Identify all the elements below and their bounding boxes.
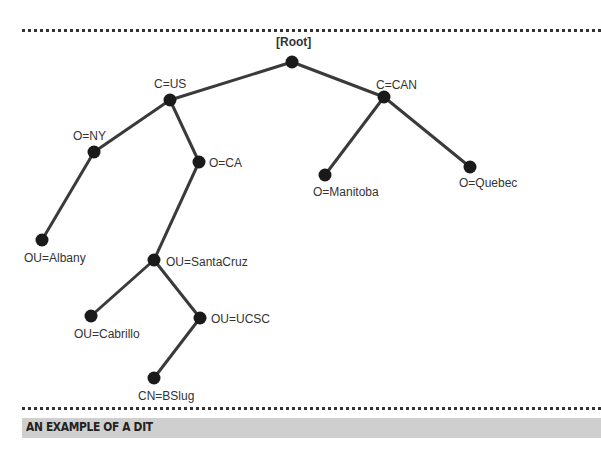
bottom-dotted-rule (22, 407, 601, 410)
node-ou-cabrillo (85, 310, 98, 323)
label-c-us: C=US (154, 77, 186, 91)
edge-root-us (170, 62, 292, 100)
label-root: [Root] (276, 35, 311, 49)
edge-us-ca (170, 100, 199, 162)
node-root (286, 56, 299, 69)
label-ou-albany: OU=Albany (24, 251, 86, 265)
label-o-ny: O=NY (73, 129, 106, 143)
node-ou-santacruz (148, 254, 161, 267)
label-cn-bslug: CN=BSlug (138, 389, 194, 403)
label-c-can: C=CAN (376, 78, 417, 92)
label-ou-cabrillo: OU=Cabrillo (74, 327, 140, 341)
edge-us-ny (94, 100, 170, 152)
node-o-ny (88, 146, 101, 159)
label-o-quebec: O=Quebec (459, 176, 517, 190)
label-o-manitoba: O=Manitoba (313, 185, 379, 199)
edge-can-quebec (384, 97, 470, 167)
edge-root-can (292, 62, 384, 97)
node-ou-albany (36, 234, 49, 247)
node-o-quebec (464, 161, 477, 174)
label-ou-santacruz: OU=SantaCruz (166, 255, 248, 269)
node-o-ca (193, 156, 206, 169)
edge-ucsc-bslug (154, 318, 200, 378)
edge-can-manitoba (325, 97, 384, 175)
node-ou-ucsc (194, 312, 207, 325)
edge-ca-santacruz (154, 162, 199, 260)
node-c-us (164, 94, 177, 107)
node-o-manitoba (319, 169, 332, 182)
edge-santacruz-cabrillo (91, 260, 154, 316)
node-cn-bslug (148, 372, 161, 385)
edge-ny-albany (42, 152, 94, 240)
node-c-can (378, 91, 391, 104)
caption-bar: AN EXAMPLE OF A DIT (22, 418, 601, 438)
figure-caption: AN EXAMPLE OF A DIT (26, 419, 153, 434)
tree-labels: [Root] C=US C=CAN O=NY O=CA O=Manitoba O… (24, 35, 517, 403)
label-ou-ucsc: OU=UCSC (211, 312, 270, 326)
dit-tree-diagram: [Root] C=US C=CAN O=NY O=CA O=Manitoba O… (0, 0, 601, 466)
label-o-ca: O=CA (209, 156, 242, 170)
